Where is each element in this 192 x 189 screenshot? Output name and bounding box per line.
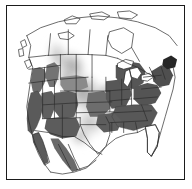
range-intermountain-west [54, 91, 78, 119]
range-map-figure [0, 0, 192, 189]
map-frame [6, 5, 185, 180]
north-america-range-map [7, 6, 184, 179]
